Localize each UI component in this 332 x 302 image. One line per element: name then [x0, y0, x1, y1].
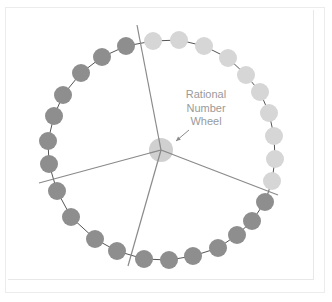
dark-bead: [243, 212, 261, 230]
dark-bead: [209, 239, 227, 257]
label-line-3: Wheel: [176, 115, 236, 129]
light-bead: [219, 49, 237, 67]
dark-bead: [93, 48, 111, 66]
wheel-label: Rational Number Wheel: [176, 88, 236, 129]
light-bead: [251, 83, 269, 101]
light-bead: [260, 104, 278, 122]
dark-bead: [72, 64, 90, 82]
dark-bead: [54, 86, 72, 104]
dark-bead: [62, 208, 80, 226]
dark-bead: [135, 250, 153, 268]
rational-number-wheel: [0, 0, 332, 302]
label-line-1: Rational: [176, 88, 236, 102]
dark-bead: [160, 251, 178, 269]
light-bead: [263, 172, 281, 190]
dark-bead: [39, 132, 57, 150]
light-bead: [170, 31, 188, 49]
dark-bead: [45, 107, 63, 125]
hub: [149, 138, 173, 162]
light-bead: [237, 66, 255, 84]
label-line-2: Number: [176, 102, 236, 116]
dark-bead: [48, 182, 66, 200]
light-bead: [195, 37, 213, 55]
light-bead: [144, 32, 162, 50]
spoke-line: [161, 150, 278, 195]
dark-bead: [184, 247, 202, 265]
light-bead: [265, 127, 283, 145]
dark-bead: [108, 242, 126, 260]
dark-bead: [117, 37, 135, 55]
dark-bead: [86, 230, 104, 248]
label-arrow-icon: [176, 130, 189, 141]
light-bead: [266, 150, 284, 168]
dark-bead: [228, 226, 246, 244]
dark-bead: [40, 155, 58, 173]
spoke-line: [128, 150, 161, 266]
dark-bead: [256, 193, 274, 211]
